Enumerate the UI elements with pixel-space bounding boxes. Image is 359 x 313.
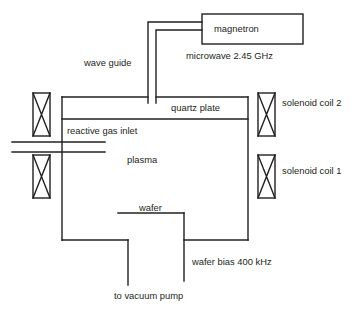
solenoid-coil-upper-right xyxy=(258,93,275,136)
reactive-gas-inlet-label: reactive gas inlet xyxy=(67,126,137,135)
microwave-frequency-label: microwave 2.45 GHz xyxy=(186,51,273,60)
quartz-plate-label: quartz plate xyxy=(171,103,220,112)
solenoid-coil-2-label: solenoid coil 2 xyxy=(282,98,341,107)
solenoid-coil-1-label: solenoid coil 1 xyxy=(282,166,341,175)
wave-guide-label: wave guide xyxy=(84,58,131,67)
solenoid-coil-lower-left xyxy=(33,155,50,198)
solenoid-coil-upper-left xyxy=(33,93,50,136)
wave-guide-inner-wall xyxy=(156,30,202,103)
wafer-bias-label: wafer bias 400 kHz xyxy=(192,257,272,266)
plasma-label: plasma xyxy=(127,155,157,164)
vacuum-pump-label: to vacuum pump xyxy=(114,291,183,300)
solenoid-coil-lower-right xyxy=(258,155,275,198)
plasma-reactor-diagram: magnetron microwave 2.45 GHz wave guide … xyxy=(0,0,359,313)
diagram-canvas xyxy=(0,0,359,313)
magnetron-label: magnetron xyxy=(214,24,259,33)
wafer-label: wafer xyxy=(139,203,162,212)
